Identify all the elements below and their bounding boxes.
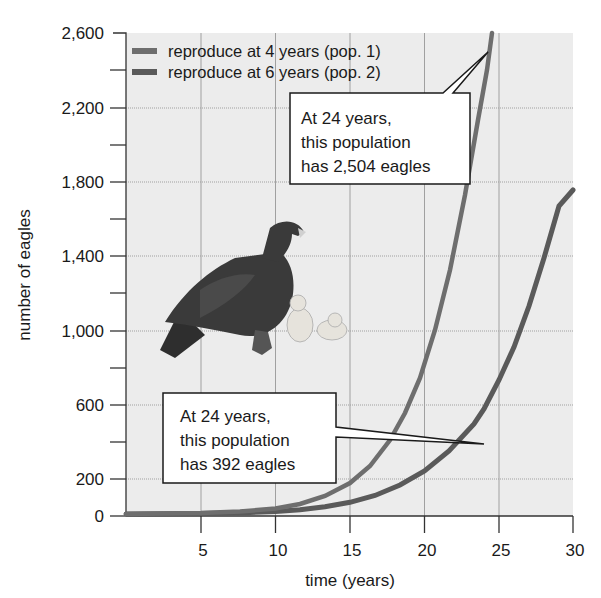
y-tick-label: 1,400: [61, 247, 104, 266]
x-tick-label: 30: [566, 541, 585, 560]
y-tick-label: 600: [76, 396, 104, 415]
x-tick-label: 5: [198, 541, 207, 560]
legend-item-pop1: reproduce at 4 years (pop. 1): [132, 42, 381, 60]
x-tick-label: 15: [343, 541, 362, 560]
callout-text-line: has 392 eagles: [180, 455, 295, 474]
y-tick-label: 0: [95, 507, 104, 526]
y-tick-label: 1,800: [61, 173, 104, 192]
legend-label: reproduce at 4 years (pop. 1): [168, 42, 381, 60]
callout-text-line: At 24 years,: [180, 407, 271, 426]
y-tick-label: 1,000: [61, 322, 104, 341]
legend-item-pop2: reproduce at 6 years (pop. 2): [132, 63, 381, 81]
eagle-population-chart: 2,600 2,200 1,800 1,400 1,000 600 200 0 …: [0, 0, 601, 598]
legend-label: reproduce at 6 years (pop. 2): [168, 63, 381, 81]
x-tick-labels: 5 10 15 20 25 30: [198, 541, 584, 560]
x-axis-title: time (years): [305, 571, 395, 590]
y-axis-title: number of eagles: [15, 209, 34, 340]
callout-text-line: At 24 years,: [301, 109, 392, 128]
callout-text-line: this population: [301, 133, 411, 152]
y-tick-labels: 2,600 2,200 1,800 1,400 1,000 600 200 0: [61, 24, 104, 526]
y-tick-label: 2,200: [61, 99, 104, 118]
callout-text-line: this population: [180, 431, 290, 450]
x-tick-label: 20: [418, 541, 437, 560]
x-tick-label: 25: [492, 541, 511, 560]
y-tick-label: 2,600: [61, 24, 104, 43]
x-tick-label: 10: [269, 541, 288, 560]
y-axis: [110, 33, 126, 516]
x-axis: [126, 516, 573, 533]
y-tick-label: 200: [76, 470, 104, 489]
callout-text-line: has 2,504 eagles: [301, 157, 431, 176]
